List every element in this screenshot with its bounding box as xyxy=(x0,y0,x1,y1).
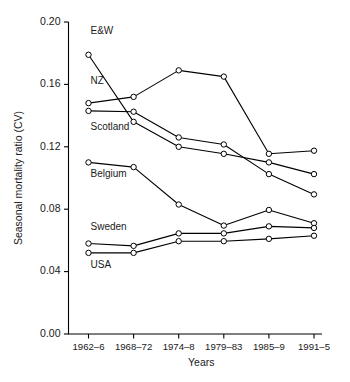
data-point-marker xyxy=(131,119,136,124)
data-point-marker xyxy=(176,238,181,243)
data-point-marker xyxy=(311,192,316,197)
data-point-marker xyxy=(131,109,136,114)
series-labels-group: E&WNZScotlandBelgiumSwedenUSA xyxy=(91,25,130,270)
x-tick-label: 1991–5 xyxy=(298,341,330,352)
series-polyline xyxy=(89,55,315,174)
series-usa xyxy=(86,233,317,256)
data-point-marker xyxy=(221,223,226,228)
series-polyline xyxy=(89,236,315,253)
data-point-marker xyxy=(311,225,316,230)
data-point-marker xyxy=(221,231,226,236)
data-point-marker xyxy=(131,250,136,255)
y-tick-label: 0.20 xyxy=(40,15,61,27)
data-point-marker xyxy=(131,94,136,99)
x-tick-label: 1985–9 xyxy=(253,341,285,352)
data-point-marker xyxy=(86,108,91,113)
x-axis-title: Years xyxy=(188,356,214,368)
data-point-marker xyxy=(176,144,181,149)
x-axis-ticks: 1962–61968–721974–81979–831985–91991–5 xyxy=(72,334,330,352)
series-label-scotland: Scotland xyxy=(91,121,130,132)
data-point-marker xyxy=(176,68,181,73)
data-point-marker xyxy=(176,202,181,207)
x-tick-label: 1962–6 xyxy=(72,341,104,352)
series-label-nz: NZ xyxy=(91,75,104,86)
series-label-belgium: Belgium xyxy=(91,168,127,179)
line-chart: 0.000.040.080.120.160.20 1962–61968–7219… xyxy=(0,0,350,382)
x-tick-label: 1974–8 xyxy=(163,341,195,352)
chart-container: 0.000.040.080.120.160.20 1962–61968–7219… xyxy=(0,0,350,382)
y-tick-label: 0.16 xyxy=(40,77,61,89)
data-point-marker xyxy=(311,148,316,153)
y-tick-label: 0.00 xyxy=(40,327,61,339)
data-point-marker xyxy=(266,171,271,176)
series-e-w xyxy=(86,52,317,177)
y-tick-label: 0.04 xyxy=(40,264,61,276)
data-point-marker xyxy=(86,100,91,105)
data-point-marker xyxy=(86,160,91,165)
series-label-sweden: Sweden xyxy=(91,221,127,232)
data-point-marker xyxy=(221,74,226,79)
data-point-marker xyxy=(221,238,226,243)
y-axis-title: Seasonal mortality ratio (CV) xyxy=(12,111,24,245)
data-point-marker xyxy=(176,231,181,236)
data-point-marker xyxy=(86,250,91,255)
x-tick-label: 1968–72 xyxy=(115,341,152,352)
y-tick-label: 0.12 xyxy=(40,140,61,152)
series-label-usa: USA xyxy=(91,259,112,270)
data-point-marker xyxy=(221,142,226,147)
data-point-marker xyxy=(311,233,316,238)
x-tick-label: 1979–83 xyxy=(205,341,242,352)
y-tick-label: 0.08 xyxy=(40,202,61,214)
data-point-marker xyxy=(86,241,91,246)
series-nz xyxy=(86,68,317,157)
data-point-marker xyxy=(266,224,271,229)
y-axis-ticks: 0.000.040.080.120.160.20 xyxy=(40,15,68,339)
data-point-marker xyxy=(266,236,271,241)
data-point-marker xyxy=(221,151,226,156)
data-point-marker xyxy=(266,160,271,165)
data-point-marker xyxy=(86,52,91,57)
data-point-marker xyxy=(176,135,181,140)
data-point-marker xyxy=(131,243,136,248)
data-point-marker xyxy=(131,164,136,169)
series-label-e-w: E&W xyxy=(91,25,114,36)
data-point-marker xyxy=(266,151,271,156)
data-point-marker xyxy=(311,171,316,176)
data-point-marker xyxy=(266,207,271,212)
